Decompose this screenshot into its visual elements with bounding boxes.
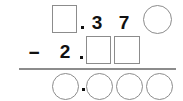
subtrahend-hundredths-input-box[interactable] [114,36,140,64]
minuend-tenths-digit: 3 [90,13,104,32]
subtrahend-tenths-input-box[interactable] [86,36,111,64]
minuend-hundredths-digit: 7 [117,13,131,32]
answer-divider-line [19,68,176,70]
answer-ones-circle[interactable] [52,73,79,100]
minuend-thousandths-answer-circle[interactable] [143,5,172,34]
minuend-decimal-point [81,26,84,29]
answer-thousandths-circle[interactable] [146,73,173,100]
subtraction-worksheet: 3 7 − 2 [0,0,183,101]
minuend-ones-input-box[interactable] [52,5,77,33]
answer-hundredths-circle[interactable] [116,73,143,100]
subtrahend-decimal-point [80,56,83,59]
minus-operator: − [26,43,42,62]
subtrahend-ones-digit: 2 [58,42,72,61]
answer-tenths-circle[interactable] [86,73,113,100]
answer-decimal-point [82,88,85,91]
